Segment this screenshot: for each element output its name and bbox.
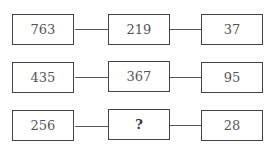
row1-connector-right xyxy=(170,29,202,30)
row1-left-box: 763 xyxy=(12,14,74,45)
row1-middle-box: 219 xyxy=(108,14,170,45)
row3-middle-box-unknown: ? xyxy=(108,109,170,140)
row2-left-box: 435 xyxy=(12,62,74,93)
row2-right-box: 95 xyxy=(201,62,263,93)
row2-connector-right xyxy=(170,77,202,78)
row3-right-box: 28 xyxy=(201,110,263,141)
row2-middle-box: 367 xyxy=(108,61,170,92)
row3-connector-right xyxy=(170,125,202,126)
row1-connector-left xyxy=(75,29,109,30)
row2-connector-left xyxy=(75,77,109,78)
row3-left-box: 256 xyxy=(12,110,74,141)
row3-connector-left xyxy=(75,126,109,127)
row1-right-box: 37 xyxy=(201,14,263,45)
